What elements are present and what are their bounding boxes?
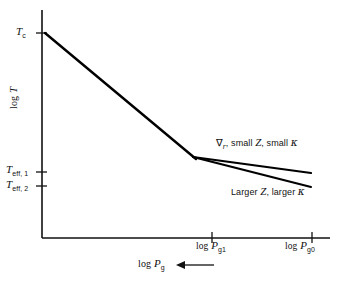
y-axis-title-log: log [8, 96, 19, 109]
curve-lower-branch [193, 157, 311, 187]
curve-main-trunk [45, 33, 196, 159]
pg1-var: P [211, 239, 218, 251]
curve-upper-branch [193, 157, 311, 173]
x-axis-title-var: P [154, 257, 161, 269]
teff2-sub: eff, 2 [12, 185, 28, 192]
y-tick-label-tc: Tc [16, 26, 26, 38]
pg1-log: log [196, 241, 208, 251]
kappa-symbol-lower: κ [298, 185, 305, 197]
stellar-structure-figure: log T log Pg Tc Teff, 1 Teff, 2 log Pg1 … [0, 0, 340, 283]
tc-sub: c [22, 32, 26, 39]
y-tick-label-teff1: Teff, 1 [6, 164, 28, 176]
y-tick-label-teff2: Teff, 2 [6, 179, 28, 191]
x-axis-title-sub: g [161, 264, 165, 271]
ann-upper-text1: , small [226, 138, 255, 148]
teff1-sub: eff, 1 [12, 170, 28, 177]
annotation-lower-branch: Larger Z, larger κ [231, 186, 305, 198]
pg1-sub: g1 [218, 246, 226, 253]
nabla-icon: ∇ [216, 137, 223, 148]
y-axis-title: log T [8, 75, 20, 121]
y-axis-title-var: T [7, 87, 19, 93]
x-tick-label-pg0: log Pg0 [285, 240, 315, 252]
ann-lower-text1: Larger [231, 187, 260, 197]
nabla-subscript: r [223, 142, 226, 151]
x-tick-label-pg1: log Pg1 [196, 240, 226, 252]
annotation-upper-branch: ∇r, small Z, small κ [216, 137, 298, 149]
ann-upper-text2: , small [261, 138, 290, 148]
ann-lower-text2: , larger [266, 187, 297, 197]
pg0-log: log [285, 241, 297, 251]
pg0-var: P [300, 239, 307, 251]
x-axis-title-log: log [138, 258, 151, 269]
x-axis-direction-arrow [176, 261, 214, 269]
kappa-symbol-upper: κ [291, 136, 298, 148]
x-axis-title: log Pg [138, 258, 165, 270]
pg0-sub: g0 [307, 246, 315, 253]
